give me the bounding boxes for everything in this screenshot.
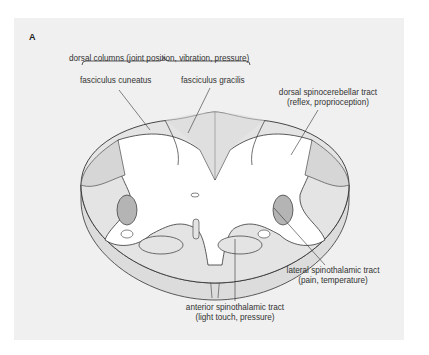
label-fasciculus-gracilis: fasciculus gracilis	[181, 76, 245, 86]
label-ast-line2: (light touch, pressure)	[182, 313, 288, 323]
anterior-spinothalamic-right	[218, 236, 262, 254]
panel-label: A	[29, 32, 36, 42]
label-anterior-spinothalamic: anterior spinothalamic tract (light touc…	[182, 303, 288, 323]
label-lst-line2: (pain, temperature)	[279, 276, 387, 286]
lateral-spinothalamic-left	[117, 195, 137, 225]
label-dorsal-spinocerebellar: dorsal spinocerebellar tract (reflex, pr…	[273, 88, 383, 108]
label-dorsal-columns: dorsal columns (joint position, vibratio…	[69, 54, 249, 64]
label-lst-line1: lateral spinothalamic tract	[279, 266, 387, 276]
anterior-spinothalamic-left	[139, 236, 183, 254]
label-dsc-line1: dorsal spinocerebellar tract	[273, 88, 383, 98]
label-ast-line1: anterior spinothalamic tract	[182, 303, 288, 313]
label-fasciculus-cuneatus: fasciculus cuneatus	[80, 76, 151, 86]
label-dsc-line2: (reflex, proprioception)	[273, 98, 383, 108]
label-lateral-spinothalamic: lateral spinothalamic tract (pain, tempe…	[279, 266, 387, 286]
central-canal	[191, 193, 199, 197]
